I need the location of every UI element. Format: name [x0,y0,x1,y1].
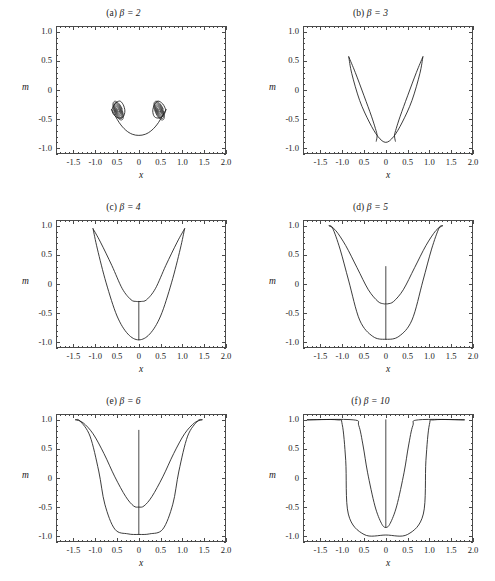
panel-beta-value: β = 5 [367,202,388,212]
y-tick [56,542,58,543]
x-tick [473,26,474,30]
panel-label: (d) [353,202,364,212]
x-tick [226,538,227,542]
x-tick-label: 2.0 [211,545,241,555]
y-tick-label: -0.5 [22,502,52,512]
x-tick [226,26,227,30]
x-axis-label: x [303,170,473,180]
y-tick [224,348,226,349]
x-tick-label: 2.0 [458,545,488,555]
curve-group-b [303,26,473,154]
y-tick-label: 0.5 [269,443,299,453]
y-tick [303,154,305,155]
y-tick-label: 1.0 [269,26,299,36]
panel-d: (d) β = 51.00.50-0.5-1.0-1.5-1.00.500.51… [247,194,494,387]
y-tick-label: -1.0 [269,531,299,541]
y-tick [303,542,305,543]
y-tick-label: 1.0 [22,414,52,424]
x-tick [473,220,474,224]
y-tick-label: 0.5 [22,55,52,65]
curve-group-d [303,220,473,348]
x-axis-label: x [303,364,473,374]
curve-group-e [56,414,226,542]
plot-area-b [303,26,473,154]
x-tick [226,344,227,348]
x-tick [473,414,474,418]
x-tick-label: 2.0 [211,351,241,361]
y-tick-label: 1.0 [22,220,52,230]
curve-group-c [56,220,226,348]
y-axis-label: m [269,470,276,480]
x-tick-label: 2.0 [211,157,241,167]
x-tick [473,538,474,542]
panel-title-f: (f) β = 10 [247,396,494,406]
y-tick-label: 1.0 [22,26,52,36]
panel-title-a: (a) β = 2 [0,8,247,18]
plot-area-d [303,220,473,348]
y-tick-label: 0.5 [269,55,299,65]
y-axis-label: m [22,276,29,286]
x-tick [226,150,227,154]
panel-label: (e) [106,396,117,406]
y-tick-label: -1.0 [269,143,299,153]
y-tick-label: 1.0 [269,220,299,230]
panel-beta-value: β = 6 [120,396,141,406]
x-axis-label: x [56,170,226,180]
y-tick [224,542,226,543]
y-axis-label: m [22,470,29,480]
y-tick-label: -1.0 [22,143,52,153]
y-tick-label: -1.0 [22,531,52,541]
panel-f: (f) β = 101.00.50-0.5-1.0-1.5-1.00.500.5… [247,388,494,581]
curve-group-a [56,26,226,154]
y-tick-label: -0.5 [22,308,52,318]
y-tick-label: 0.5 [269,249,299,259]
y-axis-label: m [269,276,276,286]
panel-beta-value: β = 2 [120,8,141,18]
panel-label: (f) [351,396,361,406]
x-tick [473,344,474,348]
figure-root: (a) β = 21.00.50-0.5-1.0-1.5-1.00.500.51… [0,0,495,581]
plot-area-e [56,414,226,542]
panel-b: (b) β = 31.00.50-0.5-1.0-1.5-1.00.500.51… [247,0,494,193]
y-tick-label: -0.5 [269,114,299,124]
curve-group-f [303,414,473,542]
panel-title-b: (b) β = 3 [247,8,494,18]
y-tick-label: 0.5 [22,443,52,453]
y-tick [224,154,226,155]
x-axis-label: x [56,364,226,374]
y-tick-label: -0.5 [269,308,299,318]
plot-area-c [56,220,226,348]
panel-label: (b) [353,8,364,18]
y-tick-label: -1.0 [22,337,52,347]
y-tick-label: -0.5 [22,114,52,124]
panel-beta-value: β = 10 [364,396,390,406]
plot-area-f [303,414,473,542]
panel-a: (a) β = 21.00.50-0.5-1.0-1.5-1.00.500.51… [0,0,247,193]
y-tick [56,348,58,349]
panel-beta-value: β = 3 [367,8,388,18]
y-axis-label: m [22,82,29,92]
curve-inner [93,229,185,302]
panel-label: (c) [106,202,117,212]
y-tick-label: 0.5 [22,249,52,259]
y-tick-label: 1.0 [269,414,299,424]
panel-beta-value: β = 4 [120,202,141,212]
x-axis-label: x [56,558,226,568]
x-tick [226,220,227,224]
curve-outer-loop [349,57,423,143]
y-tick-label: -1.0 [269,337,299,347]
y-tick-label: -0.5 [269,502,299,512]
panel-title-e: (e) β = 6 [0,396,247,406]
panel-label: (a) [106,8,117,18]
x-tick [473,150,474,154]
x-axis-label: x [303,558,473,568]
y-tick [471,542,473,543]
panel-c: (c) β = 41.00.50-0.5-1.0-1.5-1.00.500.51… [0,194,247,387]
y-tick [471,348,473,349]
x-tick [226,414,227,418]
x-tick-label: 2.0 [458,351,488,361]
x-tick-label: 2.0 [458,157,488,167]
y-tick [303,348,305,349]
y-tick [471,154,473,155]
plot-area-a [56,26,226,154]
